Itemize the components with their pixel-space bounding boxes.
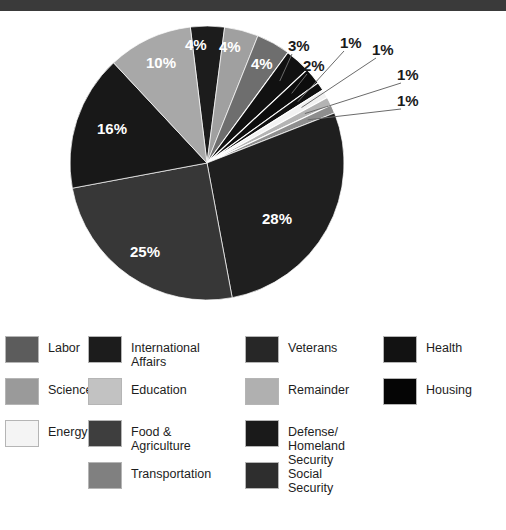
legend-swatch-food-agriculture [88, 420, 122, 447]
legend-item-health[interactable]: Health [383, 336, 462, 363]
legend-label-science: Science [48, 378, 92, 397]
pie-label-education: 4% [219, 39, 241, 54]
legend-item-transportation[interactable]: Transportation [88, 462, 211, 489]
pie-label-science: 1% [340, 35, 362, 50]
pie-label-housing: 3% [288, 38, 310, 53]
pie-label-health: 16% [97, 121, 127, 136]
legend-item-food-agriculture[interactable]: Food & Agriculture [88, 420, 191, 453]
legend-item-social-security[interactable]: Social Security [245, 462, 333, 495]
legend-swatch-veterans [245, 336, 279, 363]
legend-swatch-education [88, 378, 122, 405]
legend-label-social-security: Social Security [288, 462, 333, 495]
legend-label-veterans: Veterans [288, 336, 337, 355]
legend-label-energy: Energy [48, 420, 88, 439]
legend-swatch-energy [5, 420, 39, 447]
pie-chart-area: 4%4%4%3%2%1%1%1%1%28%25%16%10% [0, 11, 506, 321]
legend-label-housing: Housing [426, 378, 472, 397]
legend-item-education[interactable]: Education [88, 378, 187, 405]
legend-label-transportation: Transportation [131, 462, 211, 481]
legend-item-remainder[interactable]: Remainder [245, 378, 349, 405]
legend-swatch-science [5, 378, 39, 405]
legend-item-housing[interactable]: Housing [383, 378, 472, 405]
legend-item-veterans[interactable]: Veterans [245, 336, 337, 363]
legend-item-energy[interactable]: Energy [5, 420, 88, 447]
top-dark-bar [0, 0, 506, 11]
legend-item-international-affairs[interactable]: International Affairs [88, 336, 200, 369]
legend-swatch-defense-homeland-security [245, 420, 279, 447]
legend-swatch-social-security [245, 462, 279, 489]
legend-label-international-affairs: International Affairs [131, 336, 200, 369]
legend-item-science[interactable]: Science [5, 378, 92, 405]
pie-label-labor: 1% [397, 67, 419, 82]
pie-label-social-security: 25% [130, 244, 160, 259]
legend-swatch-labor [5, 336, 39, 363]
legend-swatch-international-affairs [88, 336, 122, 363]
legend-item-defense-homeland-security[interactable]: Defense/ Homeland Security [245, 420, 345, 467]
legend-label-food-agriculture: Food & Agriculture [131, 420, 191, 453]
pie-label-international-affairs: 4% [185, 37, 207, 52]
legend-label-remainder: Remainder [288, 378, 349, 397]
chart-legend: LaborScienceEnergyInternational AffairsE… [0, 330, 506, 530]
pie-label-food-agriculture: 4% [251, 56, 273, 71]
legend-swatch-health [383, 336, 417, 363]
pie-label-energy: 1% [372, 42, 394, 57]
legend-label-education: Education [131, 378, 187, 397]
legend-label-health: Health [426, 336, 462, 355]
pie-label-veterans: 10% [146, 55, 176, 70]
legend-label-defense-homeland-security: Defense/ Homeland Security [288, 420, 345, 467]
legend-label-labor: Labor [48, 336, 80, 355]
pie-label-remainder: 1% [397, 93, 419, 108]
pie-label-defense-homeland: 28% [262, 211, 292, 226]
legend-item-labor[interactable]: Labor [5, 336, 80, 363]
legend-swatch-transportation [88, 462, 122, 489]
pie-chart-page: 4%4%4%3%2%1%1%1%1%28%25%16%10% LaborScie… [0, 0, 506, 530]
legend-swatch-remainder [245, 378, 279, 405]
pie-label-transportation: 2% [303, 58, 325, 73]
legend-swatch-housing [383, 378, 417, 405]
